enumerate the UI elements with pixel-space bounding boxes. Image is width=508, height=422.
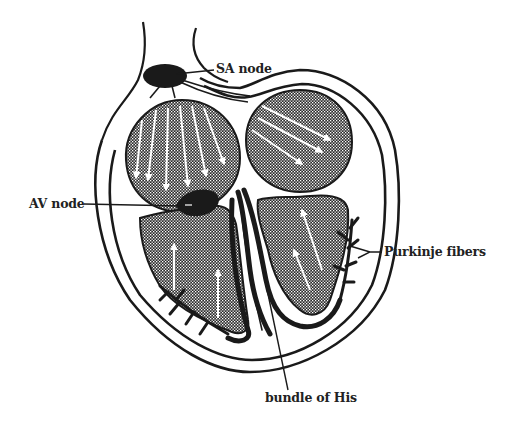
sa-node-shape bbox=[143, 64, 187, 88]
bundle-of-his-label: bundle of His bbox=[265, 390, 357, 405]
av-node-label: AV node bbox=[29, 196, 85, 211]
heart-conduction-diagram: SA node AV node Purkinje fibers bundle o… bbox=[0, 0, 508, 422]
right-atrium bbox=[126, 100, 240, 212]
purkinje-fibers-label: Purkinje fibers bbox=[384, 244, 486, 259]
sa-node-label: SA node bbox=[216, 61, 272, 76]
left-atrium bbox=[246, 90, 352, 192]
